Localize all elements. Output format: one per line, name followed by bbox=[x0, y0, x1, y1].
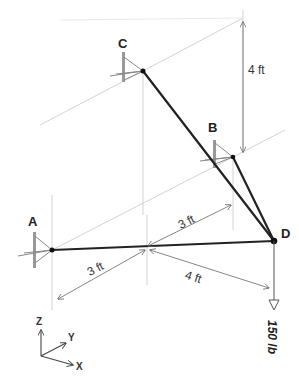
member-cd bbox=[143, 71, 274, 241]
construction-lines bbox=[40, 10, 285, 310]
load-label: 150 lb bbox=[265, 320, 279, 354]
member-bd bbox=[233, 157, 274, 241]
truss-members bbox=[52, 71, 274, 250]
load-arrow bbox=[269, 241, 279, 310]
dimension-4ft-vertical: 4 ft bbox=[248, 63, 265, 77]
support-a bbox=[18, 232, 52, 268]
support-c bbox=[110, 52, 143, 82]
point-a-label: A bbox=[28, 214, 37, 229]
axis-y-label: Y bbox=[68, 332, 75, 343]
point-b-label: B bbox=[208, 120, 217, 135]
point-c-label: C bbox=[118, 36, 127, 51]
support-b bbox=[200, 140, 233, 168]
truss-diagram bbox=[0, 0, 299, 390]
dimension-lines bbox=[58, 22, 269, 299]
axis-x-label: X bbox=[76, 361, 83, 372]
member-ad bbox=[52, 241, 274, 250]
point-d-label: D bbox=[281, 226, 290, 241]
axis-z-label: Z bbox=[36, 316, 42, 327]
